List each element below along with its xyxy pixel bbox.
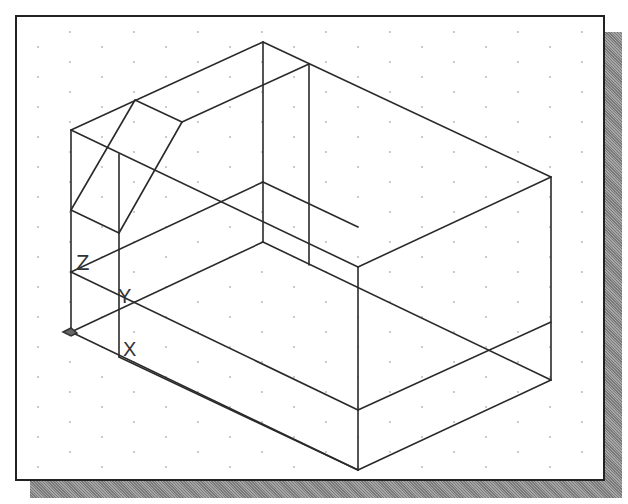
grid-dot [453, 361, 455, 363]
wireframe-edge[interactable] [71, 42, 263, 130]
grid-dot [165, 256, 167, 258]
grid-dot [37, 46, 39, 48]
grid-dot [69, 91, 71, 93]
grid-dot [229, 166, 231, 168]
grid-dot [581, 121, 583, 123]
grid-dot [197, 361, 199, 363]
grid-dot [261, 391, 263, 393]
grid-dot [197, 31, 199, 33]
grid-dot [581, 31, 583, 33]
grid-dot [197, 451, 199, 453]
grid-dot [517, 61, 519, 63]
wireframe-model[interactable] [71, 42, 551, 470]
grid-dot [165, 436, 167, 438]
grid-dot [229, 286, 231, 288]
grid-dot [581, 181, 583, 183]
wireframe-edge[interactable] [358, 380, 551, 470]
grid-dot [517, 211, 519, 213]
grid-dot [389, 151, 391, 153]
grid-dot [485, 406, 487, 408]
grid-dot [357, 256, 359, 258]
grid-dot [517, 181, 519, 183]
grid-dot [101, 106, 103, 108]
grid-dot [37, 406, 39, 408]
grid-dot [357, 196, 359, 198]
grid-dot [357, 76, 359, 78]
wireframe-edge[interactable] [263, 242, 551, 380]
grid-dot [69, 421, 71, 423]
grid-dot [165, 136, 167, 138]
grid-dot [229, 376, 231, 378]
wireframe-edge[interactable] [263, 42, 551, 177]
grid-dot [37, 286, 39, 288]
grid-dot [453, 271, 455, 273]
grid-dot [453, 61, 455, 63]
grid-dot [197, 91, 199, 93]
grid-dot [165, 406, 167, 408]
grid-dot [581, 151, 583, 153]
wireframe-edge[interactable] [71, 182, 263, 272]
grid-dot [485, 166, 487, 168]
grid-dot [389, 31, 391, 33]
drawing-viewport[interactable]: Z Y X [15, 15, 605, 481]
grid-dot [421, 466, 423, 468]
grid-dot [261, 421, 263, 423]
grid-dot [229, 316, 231, 318]
grid-dot [229, 136, 231, 138]
grid-dot [293, 76, 295, 78]
grid-dot [485, 76, 487, 78]
grid-dot [37, 316, 39, 318]
grid-dot [421, 76, 423, 78]
grid-dot [133, 121, 135, 123]
grid-dot [485, 46, 487, 48]
grid-dot [581, 241, 583, 243]
grid-dot [165, 76, 167, 78]
grid-dot [229, 46, 231, 48]
grid-dot [453, 301, 455, 303]
grid-dot [165, 46, 167, 48]
grid-dot [421, 106, 423, 108]
wireframe-edge[interactable] [182, 64, 309, 122]
wireframe-edge[interactable] [358, 177, 551, 267]
grid-dot [549, 166, 551, 168]
grid-dot [133, 331, 135, 333]
grid-dot [101, 226, 103, 228]
ucs-origin-marker [63, 328, 77, 336]
grid-dot [517, 361, 519, 363]
wireframe-edge[interactable] [71, 130, 358, 267]
grid-dot [453, 421, 455, 423]
wireframe-edge[interactable] [71, 100, 135, 210]
wireframe-edge[interactable] [135, 100, 182, 122]
wireframe-edge[interactable] [263, 182, 358, 227]
grid-dot [37, 256, 39, 258]
grid-dot [197, 241, 199, 243]
grid-dot [581, 271, 583, 273]
grid-dot [325, 31, 327, 33]
grid-dot [101, 406, 103, 408]
grid-dot [389, 271, 391, 273]
grid-dot [37, 106, 39, 108]
grid-dot [293, 136, 295, 138]
grid-dot [293, 346, 295, 348]
grid-dot [165, 166, 167, 168]
grid-dot [37, 136, 39, 138]
grid-dot [485, 226, 487, 228]
drawing-canvas[interactable]: Z Y X [2, 2, 628, 504]
wireframe-edge[interactable] [119, 122, 182, 233]
grid-dot [325, 421, 327, 423]
wireframe-edge[interactable] [71, 210, 119, 233]
grid-dot [549, 406, 551, 408]
grid-dot [133, 31, 135, 33]
wireframe-edge[interactable] [119, 357, 358, 470]
grid-dot [293, 316, 295, 318]
grid-dot [37, 436, 39, 438]
grid-dot [485, 136, 487, 138]
grid-dot [101, 376, 103, 378]
grid-dot [389, 241, 391, 243]
grid-dot [453, 181, 455, 183]
grid-dot [389, 121, 391, 123]
wireframe-edge[interactable] [71, 272, 358, 410]
grid-dot [101, 466, 103, 468]
grid-dot [101, 166, 103, 168]
grid-dot [421, 46, 423, 48]
